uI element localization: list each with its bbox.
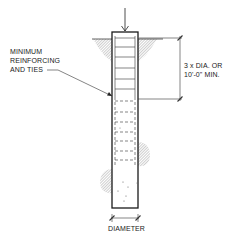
depth-label: 3 x DIA. OR 10'-0" MIN.: [184, 61, 222, 79]
reinforcing-label-line-1: MINIMUM: [10, 47, 60, 56]
pile-shaft: [112, 32, 138, 208]
diameter-label: DIAMETER: [108, 224, 145, 233]
depth-label-line-2: 10'-0" MIN.: [184, 70, 222, 79]
reinforcing-label-line-3: AND TIES: [10, 65, 60, 74]
depth-label-line-1: 3 x DIA. OR: [184, 61, 222, 70]
pile-diagram: [0, 0, 230, 250]
load-arrow-icon: [122, 8, 129, 31]
reinforcing-label-line-2: REINFORCING: [10, 56, 60, 65]
reinforcing-label: MINIMUM REINFORCING AND TIES: [10, 47, 60, 74]
diameter-dimension: [110, 214, 141, 222]
